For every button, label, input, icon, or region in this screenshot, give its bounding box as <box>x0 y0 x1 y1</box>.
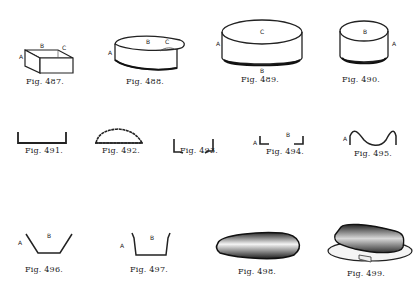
figure-492: Fig. 492. <box>90 130 150 180</box>
label-b: B <box>150 235 154 241</box>
label-c: C <box>260 29 264 35</box>
caption-490: Fig. 490. <box>342 75 380 84</box>
label-a: A <box>343 136 347 142</box>
caption-493: Fig. 493. <box>180 146 218 155</box>
label-a: A <box>216 41 220 47</box>
caption-489: Fig. 489. <box>241 75 279 84</box>
label-b: B <box>47 233 51 239</box>
figure-497: A B Fig. 497. <box>110 225 180 275</box>
figure-498: Fig. 498. <box>210 225 310 280</box>
label-a: A <box>392 41 396 47</box>
figure-488: A B C Fig. 488. <box>95 0 195 95</box>
figure-493: Fig. 493. <box>170 140 230 180</box>
figure-499: Fig. 499. <box>325 215 420 280</box>
label-a: A <box>18 240 22 246</box>
figure-496: A B Fig. 496. <box>10 225 80 275</box>
caption-488: Fig. 488. <box>126 77 164 86</box>
label-b: B <box>260 68 264 74</box>
figure-491: Fig. 491. <box>0 130 80 180</box>
label-a: A <box>120 243 124 249</box>
figure-495: A Fig. 495. <box>340 130 420 180</box>
caption-495: Fig. 495. <box>354 149 392 158</box>
caption-497: Fig. 497. <box>130 265 168 274</box>
figure-494: A B Fig. 494. <box>250 130 320 180</box>
caption-499: Fig. 499. <box>347 269 385 278</box>
label-c: C <box>62 45 66 51</box>
label-c: C <box>165 39 169 45</box>
caption-494: Fig. 494. <box>266 147 304 156</box>
figure-490: A B Fig. 490. <box>330 0 420 95</box>
label-a: A <box>253 140 257 146</box>
crimped-dome-drawing <box>90 130 150 180</box>
caption-487: Fig. 487. <box>26 77 64 86</box>
label-b: B <box>286 132 290 138</box>
figure-487: A B C Fig. 487. <box>0 0 100 95</box>
label-b: B <box>146 39 150 45</box>
label-b: B <box>40 43 44 49</box>
caption-492: Fig. 492. <box>102 146 140 155</box>
label-b: B <box>363 29 367 35</box>
caption-496: Fig. 496. <box>25 265 63 274</box>
label-a: A <box>19 54 23 60</box>
channel-section-drawing <box>0 130 80 180</box>
caption-491: Fig. 491. <box>25 146 63 155</box>
label-a: A <box>108 50 112 56</box>
figure-489: A B C Fig. 489. <box>210 0 320 95</box>
caption-498: Fig. 498. <box>238 267 276 276</box>
